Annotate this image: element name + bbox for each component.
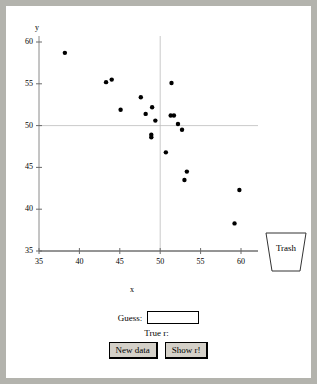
scatter-plot[interactable]: y x 354045505560354045505560 [6,6,266,306]
y-tick-label: 40 [17,204,33,213]
data-point[interactable] [182,178,186,182]
data-point[interactable] [185,169,189,173]
y-tick-label: 60 [17,37,33,46]
y-tick-label: 35 [17,246,33,255]
y-axis-title: y [35,23,39,32]
x-tick-label: 55 [191,257,211,266]
y-tick-label: 45 [17,162,33,171]
show-r-button[interactable]: Show r! [165,342,209,359]
data-point[interactable] [149,135,153,139]
data-point[interactable] [150,105,154,109]
data-point[interactable] [176,122,180,126]
x-axis-title: x [130,285,134,294]
data-point[interactable] [104,80,108,84]
data-point[interactable] [237,188,241,192]
controls-panel: Guess: True r: New data Show r! [6,311,311,363]
data-point[interactable] [139,95,143,99]
data-point[interactable] [153,118,157,122]
x-tick-label: 35 [29,257,49,266]
trash-label: Trash [262,243,310,253]
guess-input[interactable] [147,311,199,324]
data-point[interactable] [63,51,67,55]
guess-label: Guess: [118,313,143,323]
guess-row: Guess: [6,311,311,324]
data-point[interactable] [110,77,114,81]
y-tick-label: 55 [17,79,33,88]
x-tick-label: 45 [110,257,130,266]
true-r-label: True r: [144,328,168,338]
data-point[interactable] [143,112,147,116]
true-r-row: True r: [6,328,311,338]
x-tick-label: 40 [69,257,89,266]
x-tick-label: 60 [231,257,251,266]
x-tick-label: 50 [150,257,170,266]
data-point[interactable] [118,108,122,112]
trash-can-icon[interactable]: Trash [262,227,310,275]
new-data-button[interactable]: New data [109,342,158,359]
data-point[interactable] [164,150,168,154]
y-tick-label: 50 [17,121,33,130]
buttons-row: New data Show r! [6,342,311,359]
data-point[interactable] [172,113,176,117]
data-point[interactable] [169,81,173,85]
data-point[interactable] [180,128,184,132]
correlation-guessing-app-window: y x 354045505560354045505560 Trash Guess… [6,6,311,378]
data-point[interactable] [232,221,236,225]
